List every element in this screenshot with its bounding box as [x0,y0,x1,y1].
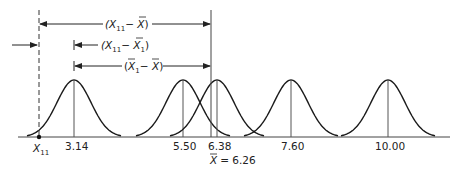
observation-point [37,135,41,139]
within-deviation-label: (X11− X1) [101,39,149,54]
between-deviation-label: (X1− X) [124,60,163,75]
curve-label-5: 10.00 [375,140,405,152]
curve-label-4: 7.60 [281,140,304,152]
curve-label-3: 6.38 [208,140,231,152]
curve-label-1: 3.14 [65,140,89,152]
curve-label-2: 5.50 [173,140,196,152]
observation-label: X11 [32,142,49,157]
total-deviation-label: (X11− X) [105,18,149,33]
distribution-curves [27,80,435,137]
grand-mean-label: X= 6.26 [209,154,256,166]
deviation-diagram: (X11− X) (X11− X1) (X1− X) X11 3.14 5.50… [0,0,458,174]
